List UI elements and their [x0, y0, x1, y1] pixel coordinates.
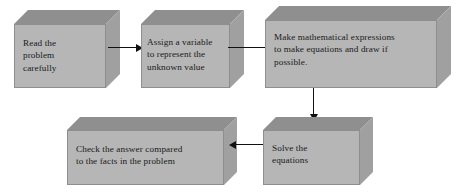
flow-node-label: Solve the equations — [272, 142, 360, 167]
arrow-shaft — [228, 47, 267, 49]
box-top-face — [265, 6, 451, 20]
arrow-head-left-icon — [229, 141, 236, 149]
flow-node-read-problem[interactable]: Read the problem carefully — [14, 10, 120, 88]
flow-node-make-expressions[interactable]: Make mathematical expressions to make eq… — [265, 6, 451, 88]
box-top-face — [14, 10, 120, 24]
box-side-face — [437, 6, 451, 88]
arrow-shaft — [108, 47, 137, 49]
flow-arrow-read-to-assign — [108, 43, 144, 52]
flow-node-label: Make mathematical expressions to make eq… — [274, 31, 439, 68]
flowchart-canvas: Read the problem carefully Assign a vari… — [0, 0, 463, 195]
box-top-face — [141, 10, 244, 24]
flow-node-solve-equations[interactable]: Solve the equations — [263, 117, 373, 185]
flow-node-label: Read the problem carefully — [23, 37, 105, 74]
flow-node-label: Check the answer compared to the facts i… — [76, 143, 226, 168]
flow-node-check-answer[interactable]: Check the answer compared to the facts i… — [67, 117, 237, 185]
box-top-face — [67, 117, 237, 130]
flow-node-label: Assign a variable to represent the unkno… — [147, 36, 231, 73]
arrow-shaft — [313, 88, 315, 115]
box-top-face — [263, 117, 373, 130]
